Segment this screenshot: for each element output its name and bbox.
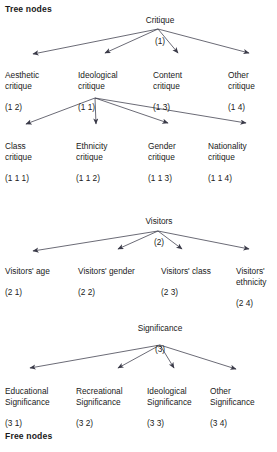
node-content-critique: Content critique (1 3) [153, 60, 223, 122]
node-label: Visitors [133, 216, 185, 226]
node-label: Ideological critique [78, 70, 150, 91]
node-code: (2) [133, 237, 185, 247]
node-visitors-root: Visitors (2) [133, 206, 185, 258]
node-label: Ethnicity critique [76, 141, 146, 162]
node-label: Gender critique [148, 141, 216, 162]
node-educational-significance: Educational Significance (3 1) [5, 376, 75, 438]
node-significance-root: Significance (3) [126, 313, 194, 365]
node-code: (2 4) [236, 298, 277, 308]
node-label: Other Significance [210, 386, 274, 407]
node-code: (3 3) [147, 418, 211, 428]
node-code: (1 1 1) [5, 173, 73, 183]
node-label: Nationality critique [208, 141, 276, 162]
node-code: (1 1 2) [76, 173, 146, 183]
node-other-critique: Other critique (1 4) [228, 60, 276, 122]
node-code: (1 1) [78, 102, 150, 112]
node-class-critique: Class critique (1 1 1) [5, 131, 73, 193]
node-visitors-gender: Visitors' gender (2 2) [78, 256, 160, 308]
node-label: Visitors' gender [78, 266, 160, 276]
node-visitors-age: Visitors' age (2 1) [5, 256, 75, 308]
node-code: (3 2) [76, 418, 148, 428]
node-other-significance: Other Significance (3 4) [210, 376, 274, 438]
node-code: (2 3) [161, 287, 235, 297]
node-ideological-critique: Ideological critique (1 1) [78, 60, 150, 122]
node-ideological-significance: Ideological Significance (3 3) [147, 376, 211, 438]
node-code: (3 1) [5, 418, 75, 428]
node-code: (2 2) [78, 287, 160, 297]
node-ethnicity-critique: Ethnicity critique (1 1 2) [76, 131, 146, 193]
node-label: Content critique [153, 70, 223, 91]
node-code: (1) [133, 36, 187, 46]
node-nationality-critique: Nationality critique (1 1 4) [208, 131, 276, 193]
node-visitors-class: Visitors' class (2 3) [161, 256, 235, 308]
node-label: Aesthetic critique [5, 70, 75, 91]
node-label: Critique [133, 15, 187, 25]
node-code: (3) [126, 344, 194, 354]
node-critique-root: Critique (1) [133, 5, 187, 57]
node-label: Other critique [228, 70, 276, 91]
node-code: (1 4) [228, 102, 276, 112]
node-label: Visitors' age [5, 266, 75, 276]
node-code: (1 1 3) [148, 173, 216, 183]
node-code: (1 3) [153, 102, 223, 112]
node-gender-critique: Gender critique (1 1 3) [148, 131, 216, 193]
node-label: Educational Significance [5, 386, 75, 407]
node-label: Recreational Significance [76, 386, 148, 407]
node-label: Visitors' class [161, 266, 235, 276]
tree-nodes-heading: Tree nodes [5, 4, 52, 14]
node-visitors-ethnicity: Visitors' ethnicity (2 4) [236, 256, 277, 318]
node-aesthetic-critique: Aesthetic critique (1 2) [5, 60, 75, 122]
node-code: (3 4) [210, 418, 274, 428]
node-code: (1 2) [5, 102, 75, 112]
node-label: Ideological Significance [147, 386, 211, 407]
node-label: Significance [126, 323, 194, 333]
node-label: Visitors' ethnicity [236, 266, 277, 287]
node-code: (1 1 4) [208, 173, 276, 183]
diagram-canvas: Tree nodes Free nodes Critique (1) Aesth… [0, 0, 277, 452]
node-code: (2 1) [5, 287, 75, 297]
node-recreational-significance: Recreational Significance (3 2) [76, 376, 148, 438]
node-label: Class critique [5, 141, 73, 162]
